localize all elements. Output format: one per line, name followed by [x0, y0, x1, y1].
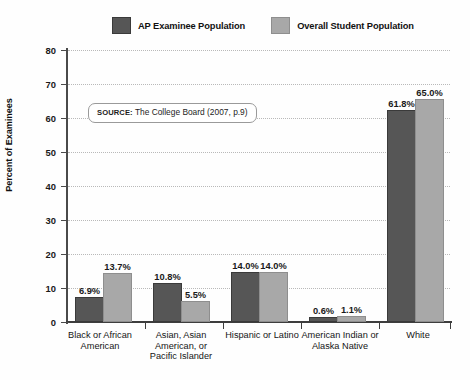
chart-legend: AP Examinee Population Overall Student P… [112, 17, 414, 34]
bar-value-overall-student-black-or-african-american: 13.7% [104, 262, 130, 272]
bar-value-ap-examinee-american-indian-or-alaska-native: 0.6% [313, 306, 334, 316]
bar-group-american-indian-or-alaska-native: 0.6% 1.1% [309, 50, 365, 322]
bar-overall-student-black-or-african-american[interactable]: 13.7% [103, 273, 132, 322]
bar-value-ap-examinee-asian-asian-american-or-pacific-islander: 10.8% [154, 272, 180, 282]
x-category-label-american-indian-or-alaska-native: American Indian or Alaska Native [300, 330, 380, 351]
bar-overall-student-white[interactable]: 65.0% [415, 99, 444, 322]
y-tick-label-40: 40 [34, 182, 56, 191]
y-tick-label-60: 60 [34, 114, 56, 123]
bar-group-black-or-african-american: 6.9% 13.7% [75, 50, 131, 322]
bar-overall-student-american-indian-or-alaska-native[interactable]: 1.1% [337, 316, 366, 323]
legend-label-overall-student: Overall Student Population [297, 21, 414, 31]
x-tick-4 [379, 322, 380, 329]
y-tick-0 [61, 322, 69, 323]
y-tick-label-70: 70 [34, 80, 56, 89]
bar-value-overall-student-white: 65.0% [416, 88, 442, 98]
y-tick-label-30: 30 [34, 216, 56, 225]
source-annotation-text: The College Board (2007, p.9) [133, 107, 248, 117]
plot-area: 6.9% 13.7% 10.8% 5.5% 14.0% 14.0% [68, 50, 450, 322]
bar-value-ap-examinee-hispanic-or-latino: 14.0% [232, 261, 258, 271]
x-category-label-black-or-african-american: Black or African American [59, 330, 141, 351]
bar-ap-examinee-white[interactable]: 61.8% [387, 110, 416, 322]
bar-overall-student-hispanic-or-latino[interactable]: 14.0% [259, 272, 288, 322]
bar-ap-examinee-black-or-african-american[interactable]: 6.9% [75, 297, 104, 323]
y-tick-label-80: 80 [34, 46, 56, 55]
bar-ap-examinee-asian-asian-american-or-pacific-islander[interactable]: 10.8% [153, 283, 182, 322]
y-tick-label-0: 0 [34, 318, 56, 327]
y-axis-title-text: Percent of Examinees [4, 98, 14, 192]
bar-value-overall-student-asian-asian-american-or-pacific-islander: 5.5% [185, 290, 206, 300]
bar-value-overall-student-american-indian-or-alaska-native: 1.1% [341, 305, 362, 315]
bar-group-asian-asian-american-or-pacific-islander: 10.8% 5.5% [153, 50, 209, 322]
legend-entry-overall-student[interactable]: Overall Student Population [271, 17, 414, 34]
y-tick-label-10: 10 [34, 284, 56, 293]
bar-ap-examinee-american-indian-or-alaska-native[interactable]: 0.6% [309, 317, 338, 322]
legend-label-ap-examinee: AP Examinee Population [138, 21, 245, 31]
x-tick-1 [145, 322, 146, 329]
chart-figure: AP Examinee Population Overall Student P… [0, 0, 470, 380]
y-tick-label-20: 20 [34, 250, 56, 259]
bar-value-ap-examinee-white: 61.8% [388, 99, 414, 109]
bar-value-ap-examinee-black-or-african-american: 6.9% [79, 286, 100, 296]
bar-group-white: 61.8% 65.0% [387, 50, 443, 322]
y-tick-label-50: 50 [34, 148, 56, 157]
y-axis-title: Percent of Examinees [0, 0, 18, 290]
x-category-label-asian-asian-american-or-pacific-islander: Asian, Asian American, or Pacific Island… [141, 330, 221, 362]
bar-group-hispanic-or-latino: 14.0% 14.0% [231, 50, 287, 322]
x-tick-5 [450, 322, 451, 329]
x-tick-2 [223, 322, 224, 329]
legend-entry-ap-examinee[interactable]: AP Examinee Population [112, 17, 245, 34]
bar-value-overall-student-hispanic-or-latino: 14.0% [260, 261, 286, 271]
source-annotation-key: SOURCE: [97, 108, 133, 117]
x-tick-3 [301, 322, 302, 329]
x-category-label-white: White [382, 330, 454, 341]
source-annotation: SOURCE: The College Board (2007, p.9) [88, 103, 257, 123]
x-category-label-hispanic-or-latino: Hispanic or Latino [218, 330, 306, 341]
bar-overall-student-asian-asian-american-or-pacific-islander[interactable]: 5.5% [181, 301, 210, 322]
bar-ap-examinee-hispanic-or-latino[interactable]: 14.0% [231, 272, 260, 322]
legend-swatch-overall-student [271, 17, 290, 34]
legend-swatch-ap-examinee [112, 17, 131, 34]
